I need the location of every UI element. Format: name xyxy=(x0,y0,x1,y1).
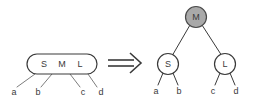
right-split-tree-group: M S L a b c d xyxy=(153,7,238,97)
four-node-label-m: M xyxy=(58,59,66,69)
left-leaf-label-d: d xyxy=(98,87,103,97)
right-leaf-label-d: d xyxy=(233,86,238,96)
child-node-l-label: L xyxy=(222,59,227,69)
edge-root-to-left-child xyxy=(172,25,190,56)
edge-l-to-d xyxy=(230,73,235,85)
diagram-canvas: S M L a b c d M xyxy=(0,0,256,106)
right-leaf-label-a: a xyxy=(153,86,158,96)
root-node-m-label: M xyxy=(192,12,200,22)
left-leaf-label-a: a xyxy=(11,87,16,97)
four-node-label-s: S xyxy=(41,59,47,69)
right-leaf-label-b: b xyxy=(176,86,181,96)
tree-split-diagram: S M L a b c d M xyxy=(0,0,256,106)
edge-l-to-c xyxy=(215,73,220,85)
edge-s-to-b xyxy=(173,73,178,85)
right-leaf-label-c: c xyxy=(211,86,216,96)
left-leaf-label-b: b xyxy=(35,87,40,97)
double-right-arrow-icon xyxy=(108,53,141,73)
edge-s-to-a xyxy=(158,73,163,85)
left-edge-to-b xyxy=(41,74,52,87)
left-four-node-group: S M L a b c d xyxy=(11,54,103,97)
left-leaf-label-c: c xyxy=(81,87,86,97)
left-edge-to-a xyxy=(17,74,35,87)
left-edge-to-c xyxy=(70,74,80,87)
left-edge-to-d xyxy=(88,74,97,87)
child-node-s-label: S xyxy=(165,59,171,69)
four-node-label-l: L xyxy=(77,59,82,69)
edge-root-to-right-child xyxy=(202,25,222,56)
